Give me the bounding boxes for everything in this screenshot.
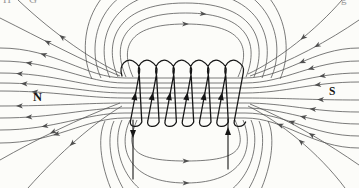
corner-field-lines <box>0 0 359 188</box>
field-direction-arrow-icon <box>307 131 315 139</box>
field-direction-arrow-icon <box>313 42 321 50</box>
field-direction-arrow-icon <box>40 51 48 58</box>
field-line <box>0 73 359 88</box>
solenoid-field-diagram: N S H G g <box>0 0 359 188</box>
field-direction-arrow-icon <box>43 38 51 46</box>
field-line <box>0 103 120 160</box>
field-line <box>250 20 359 76</box>
field-line <box>0 103 359 112</box>
field-direction-arrow-icon <box>319 73 327 79</box>
field-loop <box>85 0 286 79</box>
field-line <box>0 82 359 93</box>
field-direction-arrow-icon <box>299 114 307 121</box>
field-direction-arrow-icon <box>298 58 306 65</box>
field-line <box>28 106 122 188</box>
field-loops-bottom <box>101 120 272 188</box>
field-direction-arrow-icon <box>58 33 67 41</box>
cropped-page-text-right: g <box>341 0 355 6</box>
field-line <box>0 91 359 100</box>
diagram-canvas: N S <box>0 0 359 188</box>
north-pole-label: N <box>33 90 42 104</box>
field-loops-top <box>85 0 286 79</box>
current-up-arrow-icon <box>225 127 231 135</box>
field-loop <box>112 3 259 77</box>
field-direction-arrow-icon <box>307 65 315 72</box>
cropped-page-text-left-b: G <box>29 0 43 6</box>
cropped-page-text-left-a: H <box>3 0 17 6</box>
coil-leads <box>130 119 231 179</box>
field-loop <box>125 120 247 183</box>
field-loop <box>118 120 255 188</box>
field-line <box>0 61 359 83</box>
south-pole-label: S <box>329 85 335 97</box>
field-direction-arrow-icon <box>41 123 49 129</box>
field-line <box>250 104 359 165</box>
current-down-arrow-icon <box>130 130 136 138</box>
field-line <box>0 18 120 76</box>
field-line <box>248 0 342 74</box>
